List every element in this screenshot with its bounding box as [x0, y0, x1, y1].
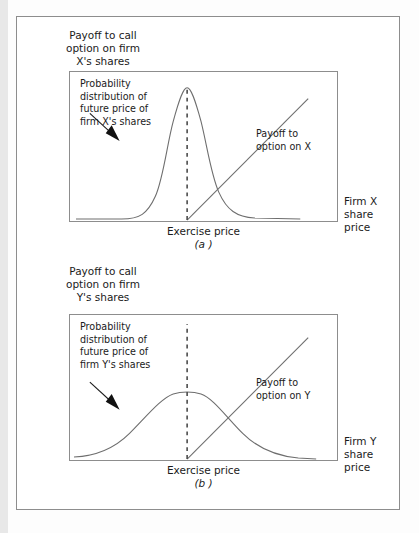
payoff-annotation-b: Payoff to option on Y — [256, 377, 310, 402]
panel-letter-a: (a ) — [69, 238, 338, 251]
distribution-annotation-a: Probability distribution of future price… — [80, 78, 188, 128]
x-axis-right-label-b: Firm Y share price — [344, 435, 399, 475]
plot-area-a: Probability distribution of future price… — [69, 71, 338, 222]
x-axis-label-b: Exercise price — [167, 464, 240, 476]
figure-frame: Payoff to call option on firm X's shares… — [16, 16, 400, 510]
distribution-annotation-b: Probability distribution of future price… — [80, 321, 188, 371]
payoff-line-x — [187, 99, 308, 220]
figure-panel-a: Payoff to call option on firm X's shares… — [17, 17, 399, 269]
y-axis-caption-b: Payoff to call option on firm Y's shares — [23, 265, 183, 305]
distribution-pointer-arrow-b — [90, 382, 120, 410]
x-axis-label-group-b: Exercise price (b ) — [69, 464, 338, 491]
panel-letter-b: (b ) — [69, 477, 338, 490]
plot-area-b: Probability distribution of future price… — [69, 314, 338, 461]
x-axis-right-label-a: Firm X share price — [344, 195, 399, 235]
x-axis-label-group-a: Exercise price (a ) — [69, 225, 338, 252]
figure-panel-b: Payoff to call option on firm Y's shares… — [17, 251, 399, 511]
x-axis-label-a: Exercise price — [167, 225, 240, 237]
payoff-annotation-a: Payoff to option on X — [256, 128, 311, 153]
y-axis-caption-a: Payoff to call option on firm X's shares — [23, 29, 183, 69]
